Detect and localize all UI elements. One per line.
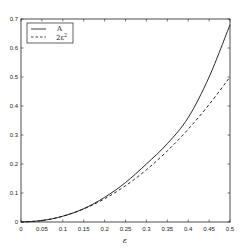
- y-tick-label: 0.6: [10, 45, 19, 51]
- y-axis-ticks: 00.10.20.30.40.50.60.7: [10, 16, 230, 225]
- x-tick-label: 0.25: [120, 226, 132, 232]
- series-line-0: [21, 25, 230, 222]
- x-tick-label: 0: [19, 226, 23, 232]
- x-axis-label: ε: [123, 236, 127, 245]
- legend: A 2ε2: [27, 23, 73, 43]
- x-tick-label: 0.05: [36, 226, 48, 232]
- y-tick-label: 0.3: [10, 132, 19, 138]
- x-axis-ticks: 00.050.10.150.20.250.30.350.40.450.5: [19, 19, 235, 232]
- line-chart: 00.050.10.150.20.250.30.350.40.450.5 00.…: [0, 0, 245, 252]
- x-tick-label: 0.5: [226, 226, 235, 232]
- y-tick-label: 0.1: [10, 190, 19, 196]
- plot-lines: [21, 25, 230, 222]
- x-tick-label: 0.35: [161, 226, 173, 232]
- y-tick-label: 0.4: [10, 103, 19, 109]
- x-tick-label: 0.15: [78, 226, 90, 232]
- x-tick-label: 0.2: [100, 226, 109, 232]
- y-tick-label: 0.2: [10, 161, 19, 167]
- y-tick-label: 0: [15, 219, 19, 225]
- x-tick-label: 0.3: [142, 226, 151, 232]
- x-tick-label: 0.45: [203, 226, 215, 232]
- plot-frame: [21, 19, 230, 222]
- x-tick-label: 0.1: [59, 226, 68, 232]
- y-tick-label: 0.5: [10, 74, 19, 80]
- y-tick-label: 0.7: [10, 16, 19, 22]
- legend-label-a: A: [56, 25, 63, 33]
- x-tick-label: 0.4: [184, 226, 193, 232]
